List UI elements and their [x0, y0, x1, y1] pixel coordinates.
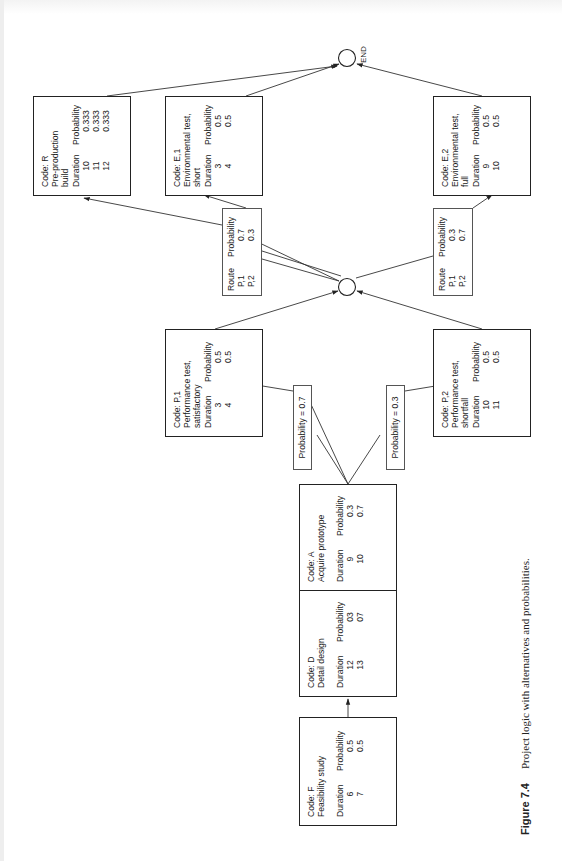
table-row: 60.5	[345, 721, 355, 817]
table-row: P,20.3	[246, 213, 256, 291]
probability-value: 0.5	[481, 97, 491, 145]
table-row: 40.5	[223, 97, 233, 187]
probability-value: 0.3	[447, 213, 457, 257]
activity-code: Code: P,2	[440, 330, 450, 428]
table-row: 30.5	[213, 97, 223, 187]
figure-caption: Figure 7.4Project logic with alternative…	[519, 558, 531, 835]
table-row: 120.333	[101, 97, 111, 187]
probability-value: 0.333	[81, 97, 91, 145]
duration-header: Duration	[335, 536, 345, 582]
activity-name: Performance test, shortfall	[450, 330, 470, 428]
duration-header: Duration	[203, 145, 213, 187]
probability-value: 0.333	[91, 97, 101, 145]
route-header: Route	[226, 257, 236, 291]
duration-value: 11	[491, 382, 501, 428]
route-table-to-e2: RouteProbability P,10.3 P,20.7	[433, 208, 473, 296]
activity-box-pre-production-build: Code: R Pre-production build DurationPro…	[33, 96, 131, 196]
branch-probability-label-p1: Probability = 0.7	[293, 385, 312, 470]
duration-value: 6	[345, 771, 355, 817]
activity-name: Environmental test, full	[450, 97, 470, 187]
table-row: P,20.7	[457, 213, 467, 291]
activity-box-environmental-test-short: Code: E,1 Environmental test, short Dura…	[165, 96, 263, 196]
probability-value: 0.5	[491, 332, 501, 382]
route-value: P,1	[447, 257, 457, 291]
duration-probability-table: DurationProbability 100.5 110.5	[471, 332, 501, 428]
duration-header: Duration	[203, 382, 213, 428]
activity-box-feasibility-study: Code: F Feasibility study DurationProbab…	[299, 717, 397, 826]
probability-header: Probability	[471, 332, 481, 382]
table-row: 100.5	[491, 97, 501, 187]
route-value: P,2	[457, 257, 467, 291]
network-diagram: Code: F Feasibility study DurationProbab…	[0, 0, 562, 861]
table-row: 100.7	[355, 486, 365, 582]
table-row: 1203	[345, 592, 355, 688]
duration-probability-table: DurationProbability 60.5 70.5	[335, 721, 365, 817]
activity-name: Pre-production build	[50, 97, 70, 187]
activity-box-detail-design: Code: D Detail design DurationProbabilit…	[299, 589, 397, 697]
duration-header: Duration	[335, 771, 345, 817]
duration-value: 4	[223, 382, 233, 428]
activity-code: Code: R	[40, 97, 50, 187]
probability-value: 03	[345, 592, 355, 642]
duration-probability-table: DurationProbability 30.5 40.5	[203, 332, 233, 428]
duration-value: 10	[81, 145, 91, 187]
probability-value: 07	[355, 592, 365, 642]
probability-value: 0.7	[457, 213, 467, 257]
activity-box-environmental-test-full: Code: E,2 Environmental test, full Durat…	[433, 96, 531, 196]
duration-header: Duration	[71, 145, 81, 187]
activity-code: Code: P,1	[172, 330, 182, 428]
table-row: P,10.3	[447, 213, 457, 291]
route-value: P,1	[236, 257, 246, 291]
table-row: P,10.7	[236, 213, 246, 291]
table-row: 110.5	[491, 332, 501, 428]
probability-value: 0.5	[491, 97, 501, 145]
route-header: Route	[437, 257, 447, 291]
duration-probability-table: DurationProbability 90.3 100.7	[335, 486, 365, 582]
route-probability-table: RouteProbability P,10.7 P,20.3	[226, 213, 256, 291]
activity-name: Environmental test, short	[182, 97, 202, 187]
duration-value: 12	[345, 642, 355, 688]
duration-value: 7	[355, 771, 365, 817]
table-row: 110.333	[91, 97, 101, 187]
duration-header: Duration	[335, 642, 345, 688]
duration-value: 3	[213, 145, 223, 187]
probability-value: 0.5	[355, 721, 365, 771]
probability-value: 0.5	[223, 97, 233, 145]
duration-value: 9	[345, 536, 355, 582]
duration-value: 10	[491, 145, 501, 187]
duration-value: 4	[223, 145, 233, 187]
table-row: 1307	[355, 592, 365, 688]
branch-probability-label-p2: Probability = 0.3	[386, 385, 405, 470]
activity-box-performance-test-shortfall: Code: P,2 Performance test, shortfall Du…	[433, 329, 531, 437]
route-probability-table: RouteProbability P,10.3 P,20.7	[437, 213, 467, 291]
activity-code: Code: E,2	[440, 97, 450, 187]
duration-header: Duration	[471, 382, 481, 428]
duration-probability-table: DurationProbability 30.5 40.5	[203, 97, 233, 187]
probability-header: Probability	[471, 97, 481, 145]
activity-code: Code: D	[306, 590, 316, 688]
table-row: 30.5	[213, 332, 223, 428]
table-row: 100.5	[481, 332, 491, 428]
activity-name: Detail design	[316, 590, 326, 688]
probability-value: 0.7	[355, 486, 365, 536]
probability-header: Probability	[335, 486, 345, 536]
route-value: P,2	[246, 257, 256, 291]
probability-header: Probability	[71, 97, 81, 145]
probability-header: Probability	[335, 721, 345, 771]
table-row: 100.333	[81, 97, 91, 187]
probability-value: 0.5	[213, 332, 223, 382]
end-node-label: END	[359, 46, 368, 63]
activity-name: Feasibility study	[316, 718, 326, 817]
table-row: 70.5	[355, 721, 365, 817]
probability-header: Probability	[226, 213, 236, 257]
probability-value: 0.5	[481, 332, 491, 382]
probability-value: 0.3	[345, 486, 355, 536]
duration-value: 11	[91, 145, 101, 187]
probability-value: 0.333	[101, 97, 111, 145]
probability-header: Probability	[203, 97, 213, 145]
duration-header: Duration	[471, 145, 481, 187]
duration-probability-table: DurationProbability 100.333 110.333 120.…	[71, 97, 111, 187]
duration-probability-table: DurationProbability 90.5 100.5	[471, 97, 501, 187]
duration-value: 10	[355, 536, 365, 582]
end-node	[339, 50, 356, 67]
